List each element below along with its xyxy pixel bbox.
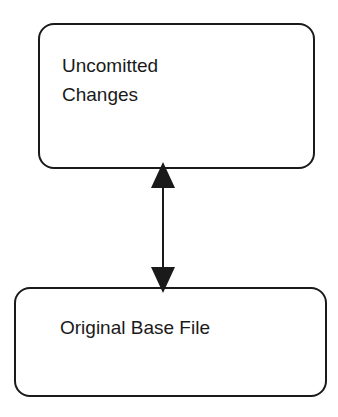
bidirectional-arrow-icon [0, 0, 338, 417]
